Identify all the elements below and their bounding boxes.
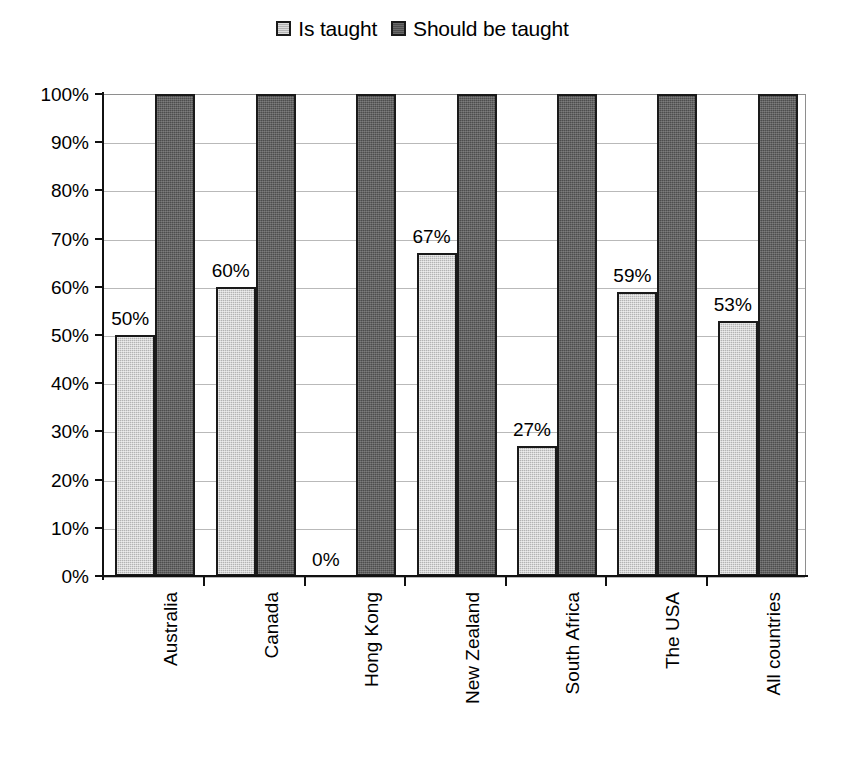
bar-is-taught xyxy=(517,446,557,576)
bar-chart: Is taught Should be taught 0%10%20%30%40… xyxy=(0,0,845,778)
x-axis-category-label: Canada xyxy=(262,592,281,659)
data-label: 60% xyxy=(212,261,250,280)
data-label: 0% xyxy=(312,550,339,569)
x-axis-category-label: New Zealand xyxy=(463,592,482,704)
gridline xyxy=(103,577,805,578)
x-axis-tick xyxy=(605,577,607,586)
bar-is-taught xyxy=(216,287,256,576)
data-label: 53% xyxy=(714,295,752,314)
x-axis-category-label: Hong Kong xyxy=(362,592,381,687)
y-axis-tick-label: 20% xyxy=(31,470,89,489)
x-axis-tick xyxy=(505,577,507,586)
x-axis-tick xyxy=(304,577,306,586)
y-axis-tick-label: 60% xyxy=(31,277,89,296)
x-axis-line xyxy=(102,575,808,577)
legend-label-should-be-taught: Should be taught xyxy=(413,18,569,39)
bar-is-taught xyxy=(417,253,457,576)
bar-should-be-taught xyxy=(457,94,497,576)
data-label: 67% xyxy=(413,227,451,246)
legend-label-is-taught: Is taught xyxy=(298,18,377,39)
y-axis-tick-label: 30% xyxy=(31,422,89,441)
y-axis-tick-label: 80% xyxy=(31,181,89,200)
y-axis-tick-label: 70% xyxy=(31,229,89,248)
legend-swatch-is-taught xyxy=(276,21,291,36)
gridline xyxy=(103,143,805,144)
x-axis-category-label: The USA xyxy=(663,592,682,669)
legend-swatch-should-be-taught xyxy=(391,21,406,36)
x-axis-category-label: South Africa xyxy=(563,592,582,694)
y-axis-line xyxy=(102,92,104,580)
legend-item-is-taught: Is taught xyxy=(276,18,377,39)
bar-is-taught xyxy=(115,335,155,576)
y-axis-tick-label: 40% xyxy=(31,374,89,393)
data-label: 59% xyxy=(613,266,651,285)
bar-is-taught xyxy=(718,321,758,576)
y-axis-labels: 0%10%20%30%40%50%60%70%80%90%100% xyxy=(27,0,89,778)
x-axis-tick xyxy=(706,577,708,586)
x-axis-tick xyxy=(404,577,406,586)
bar-should-be-taught xyxy=(758,94,798,576)
y-axis-tick-label: 10% xyxy=(31,518,89,537)
data-label: 27% xyxy=(513,420,551,439)
y-axis-tick-label: 90% xyxy=(31,133,89,152)
y-axis-tick-label: 0% xyxy=(31,567,89,586)
gridline xyxy=(103,240,805,241)
y-axis-tick-label: 100% xyxy=(31,85,89,104)
x-axis-tick xyxy=(203,577,205,586)
x-axis-category-label: Australia xyxy=(161,592,180,666)
bar-should-be-taught xyxy=(557,94,597,576)
chart-legend: Is taught Should be taught xyxy=(0,18,845,39)
legend-item-should-be-taught: Should be taught xyxy=(391,18,569,39)
bar-should-be-taught xyxy=(155,94,195,576)
plot-area xyxy=(103,94,806,576)
y-axis-tick-label: 50% xyxy=(31,326,89,345)
bar-should-be-taught xyxy=(356,94,396,576)
bar-should-be-taught xyxy=(256,94,296,576)
data-label: 50% xyxy=(111,309,149,328)
gridline xyxy=(103,191,805,192)
bar-should-be-taught xyxy=(657,94,697,576)
x-axis-category-label: All countries xyxy=(764,592,783,696)
bar-is-taught xyxy=(617,292,657,576)
